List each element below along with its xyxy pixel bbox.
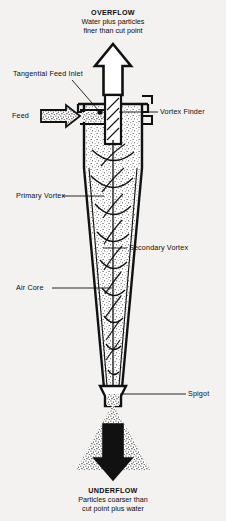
label-primary-vortex: Primary Vortex: [16, 192, 65, 201]
label-tangential-feed-inlet: Tangential Feed Inlet: [13, 70, 83, 79]
underflow-caption: UNDERFLOW Particles coarser than cut poi…: [0, 487, 226, 513]
label-vortex-finder: Vortex Finder: [160, 108, 205, 117]
vortex-finder-tube: [105, 95, 121, 144]
overflow-caption: OVERFLOW Water plus particles finer than…: [0, 9, 226, 35]
spigot-fitting: [100, 386, 126, 406]
overflow-line-2: finer than cut point: [0, 27, 226, 36]
feed-arrow-icon: [41, 105, 80, 127]
label-air-core: Air Core: [16, 284, 44, 293]
label-feed: Feed: [12, 112, 29, 121]
label-secondary-vortex: Secondary Vortex: [129, 244, 188, 253]
underflow-line-2: cut point plus water: [0, 505, 226, 514]
label-spigot: Spigot: [188, 390, 209, 399]
hydrocyclone-diagram: OVERFLOW Water plus particles finer than…: [0, 0, 226, 521]
overflow-arrow-icon: [95, 44, 131, 95]
